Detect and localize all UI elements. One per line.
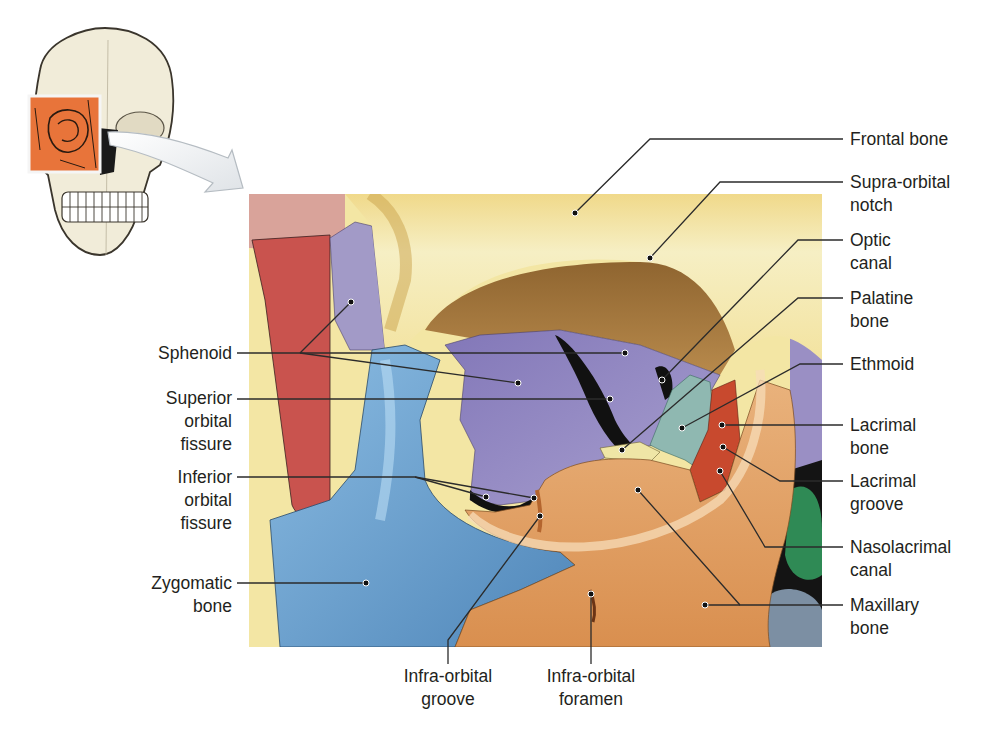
orbit-diagram: Sphenoid Superior orbital fissure Inferi…: [0, 0, 1005, 731]
orbit-highlight-box: [29, 96, 100, 172]
label-lacrimal-groove: Lacrimal groove: [850, 470, 916, 516]
label-ethmoid: Ethmoid: [850, 353, 914, 376]
label-infra-orbital-foramen: Infra-orbital foramen: [526, 665, 656, 711]
skull-inset: [29, 28, 243, 255]
label-sphenoid: Sphenoid: [158, 342, 232, 365]
orbit-illustration: [249, 194, 822, 647]
label-nasolacrimal-canal: Nasolacrimal canal: [850, 536, 951, 582]
label-maxillary-bone: Maxillary bone: [850, 594, 919, 640]
label-supra-orbital-notch: Supra-orbital notch: [850, 171, 950, 217]
label-inferior-orbital-fissure: Inferior orbital fissure: [178, 466, 232, 535]
label-lacrimal-bone: Lacrimal bone: [850, 414, 916, 460]
label-frontal-bone: Frontal bone: [850, 128, 948, 151]
label-palatine-bone: Palatine bone: [850, 287, 913, 333]
skull-teeth-icon: [62, 192, 148, 222]
label-optic-canal: Optic canal: [850, 229, 892, 275]
label-infra-orbital-groove: Infra-orbital groove: [383, 665, 513, 711]
label-zygomatic-bone: Zygomatic bone: [151, 572, 232, 618]
label-superior-orbital-fissure: Superior orbital fissure: [166, 387, 232, 456]
